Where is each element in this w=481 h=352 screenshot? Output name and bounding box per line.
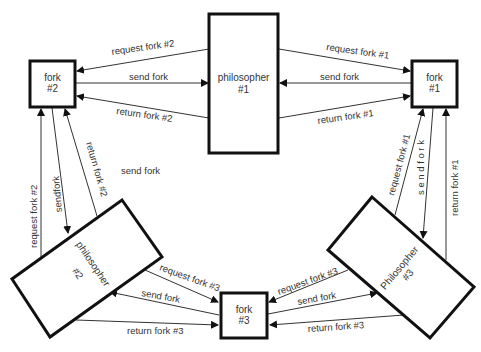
edge-f3-p2-send: send fork <box>110 287 219 315</box>
edge-label: return fork #2 <box>116 105 173 124</box>
edge-p1-f1-request: request fork #1 <box>279 41 410 71</box>
edge-label: request fork #3 <box>158 262 221 294</box>
node-fork-1: fork #1 <box>412 61 457 107</box>
edge-label: return fork #3 <box>127 325 184 336</box>
edge-p3-f3-return: return fork #3 <box>270 315 404 334</box>
node-philosopher-1: philosopher #1 <box>209 14 278 153</box>
node-label: #2 <box>47 83 59 94</box>
edge-label: request fork #2 <box>111 37 175 57</box>
edge-p2-f2-request: request fork #2 <box>28 109 41 257</box>
node-label: #1 <box>238 84 250 95</box>
edge-label: sendfork <box>50 175 64 213</box>
edge-label: return fork #2 <box>84 141 110 198</box>
edge-f1-p1-send: send fork <box>280 71 411 83</box>
node-label: fork <box>426 72 444 83</box>
edge-label: send fork <box>129 71 168 82</box>
edge-label: send fork <box>141 287 182 305</box>
edge-p1-f2-return: return fork #2 <box>77 96 209 124</box>
floating-send-fork-label: send fork <box>121 165 160 176</box>
node-fork-3: fork #3 <box>221 293 267 338</box>
edge-p1-f1-return: return fork #1 <box>279 96 410 126</box>
node-fork-2: fork #2 <box>30 61 75 107</box>
edge-p3-f1-return: return fork #1 <box>446 109 460 260</box>
node-label: philosopher <box>218 72 270 83</box>
edge-f2-p1-send: send fork <box>76 71 208 83</box>
diagram-canvas: request fork #2 send fork return fork #2… <box>0 0 481 352</box>
edge-label: request fork #1 <box>326 41 390 61</box>
edge-p2-f2-return: return fork #2 <box>65 109 110 216</box>
edge-label: send fork <box>320 71 359 82</box>
node-label: #1 <box>429 83 441 94</box>
node-label: fork <box>44 72 62 83</box>
node-label: #3 <box>238 315 250 326</box>
edge-label: request fork #2 <box>28 185 39 248</box>
node-philosopher-3: Philosopher #3 <box>328 197 474 338</box>
edge-p2-f3-return: return fork #3 <box>76 320 218 336</box>
edge-f2-p2-send: sendfork <box>50 108 68 233</box>
edge-label: return fork #1 <box>449 160 460 217</box>
node-label: fork <box>236 304 254 315</box>
edge-p1-f2-request: request fork #2 <box>77 37 209 71</box>
edge-label: s e n d f o r k <box>415 140 426 195</box>
